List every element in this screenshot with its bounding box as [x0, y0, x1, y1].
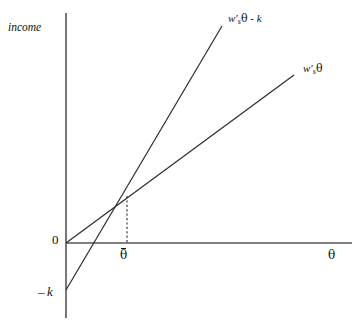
curve-lower-label: w′sθ: [303, 63, 323, 76]
curve-upper-line: [66, 26, 222, 290]
curve-upper-label: w′sθ - k: [228, 13, 262, 26]
x-tick-theta-bar-label: θ: [120, 249, 127, 261]
x-axis-label: θ: [328, 249, 335, 261]
curve-lower-theta: θ: [316, 62, 323, 75]
curve-upper-tail: - k: [248, 12, 262, 24]
y-axis-label: income: [8, 22, 41, 34]
plot-canvas: [0, 0, 362, 329]
y-intercept-negative-k-label: – k: [38, 285, 53, 298]
negk-text: –: [38, 284, 47, 299]
figure-container: income 0 – k θ θ w′sθ - k w′sθ: [0, 0, 362, 329]
negk-symbol: k: [47, 284, 53, 299]
origin-label: 0: [52, 233, 59, 246]
curve-upper-theta: θ: [241, 12, 248, 25]
theta-bar-glyph: θ: [120, 249, 127, 261]
curve-lower-line: [66, 75, 294, 243]
